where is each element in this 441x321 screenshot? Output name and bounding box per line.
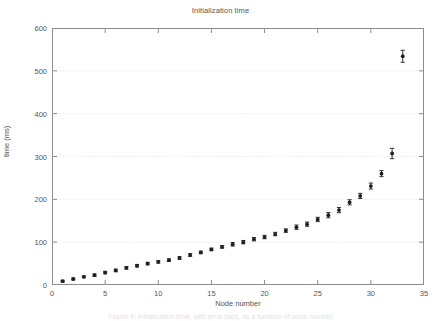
y-tick-label-0: 0 (43, 281, 47, 290)
data-point (167, 258, 171, 262)
x-tick-label-0: 0 (50, 289, 54, 298)
marker (146, 262, 150, 266)
data-point-group (61, 50, 405, 283)
marker (348, 200, 352, 204)
marker (93, 273, 97, 277)
data-point (337, 207, 341, 212)
x-tick-label-35: 35 (420, 289, 428, 298)
data-point (82, 275, 86, 279)
marker (390, 152, 394, 156)
data-point (252, 237, 256, 241)
marker (252, 237, 256, 241)
y-tick-label-600: 600 (34, 24, 47, 33)
y-tick-label-200: 200 (34, 195, 47, 204)
data-point (294, 225, 298, 229)
y-axis-title: time (ms) (2, 126, 11, 157)
marker (61, 279, 65, 283)
marker (241, 240, 245, 244)
data-point (262, 235, 266, 239)
data-point (220, 245, 224, 249)
marker (199, 251, 203, 255)
marker (103, 271, 107, 275)
marker (263, 235, 267, 239)
data-point (199, 251, 203, 255)
marker (82, 275, 86, 279)
marker (210, 248, 214, 252)
data-point (156, 260, 160, 264)
marker (273, 232, 277, 236)
x-tick-label-25: 25 (314, 289, 322, 298)
chart-title: Initialization time (0, 6, 441, 15)
data-point (348, 200, 352, 205)
data-point (71, 277, 75, 281)
y-tick-label-300: 300 (34, 152, 47, 161)
marker (71, 277, 75, 281)
x-tick-label-5: 5 (103, 289, 107, 298)
x-tick-label-30: 30 (367, 289, 375, 298)
marker (156, 260, 160, 264)
data-point (103, 271, 107, 275)
marker (358, 194, 362, 198)
marker (231, 242, 235, 246)
marker (316, 218, 320, 222)
marker (135, 264, 139, 268)
marker (401, 54, 405, 58)
data-point (124, 266, 128, 270)
data-point (369, 183, 373, 189)
plot-canvas (52, 28, 424, 285)
y-tick-label-500: 500 (34, 66, 47, 75)
data-point (316, 217, 320, 221)
y-tick-label-400: 400 (34, 109, 47, 118)
x-tick-label-10: 10 (154, 289, 162, 298)
x-tick-label-20: 20 (260, 289, 268, 298)
data-point (305, 222, 309, 226)
data-point (209, 248, 213, 252)
x-tick-label-15: 15 (207, 289, 215, 298)
marker (326, 213, 330, 217)
data-point (188, 253, 192, 257)
data-point (92, 273, 96, 277)
plot-area: 0100200300400500600 05101520253035 (52, 28, 424, 285)
marker (188, 253, 192, 257)
data-point (146, 262, 150, 266)
data-point (358, 193, 362, 198)
figure-caption: Figure 4: Initialization time, with erro… (0, 313, 441, 320)
marker (295, 225, 299, 229)
data-point (284, 229, 288, 233)
marker (337, 208, 341, 212)
y-tick-label-100: 100 (34, 238, 47, 247)
marker (305, 222, 309, 226)
data-point (273, 232, 277, 236)
data-point (241, 240, 245, 244)
gridlines (52, 71, 424, 242)
marker (369, 184, 373, 188)
marker (380, 172, 384, 176)
data-point (177, 256, 181, 260)
x-axis-title: Node number (52, 299, 424, 308)
data-point (61, 279, 65, 283)
data-point (114, 269, 118, 273)
data-point (135, 264, 139, 268)
marker (114, 269, 118, 273)
axis-ticks (52, 28, 424, 285)
data-point (326, 213, 330, 218)
figure-container: Initialization time time (ms) 0100200300… (0, 0, 441, 321)
data-point (231, 242, 235, 246)
marker (220, 245, 224, 249)
marker (125, 266, 129, 270)
marker (284, 229, 288, 233)
marker (167, 258, 171, 262)
marker (178, 256, 182, 260)
data-point (401, 50, 405, 62)
data-point (390, 148, 394, 158)
data-point (379, 171, 383, 177)
